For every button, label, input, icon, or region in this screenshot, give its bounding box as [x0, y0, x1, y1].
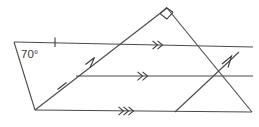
- tick-marks: [55, 38, 67, 90]
- direction-arrow-markers: [86, 56, 232, 68]
- triangle-right-leg: [167, 8, 252, 112]
- arrow-rising-diagonal: [86, 58, 95, 68]
- geometry-diagram-canvas: 70°: [0, 0, 259, 127]
- top-horizontal-line: [14, 42, 253, 47]
- bottom-horizontal-line: [35, 110, 252, 112]
- geometry-figure: 70°: [0, 0, 259, 127]
- second-rising-diagonal: [175, 52, 239, 112]
- angle-label-70: 70°: [21, 48, 38, 60]
- parallel-chevron-markers: [119, 41, 163, 115]
- rising-diagonal: [35, 8, 167, 110]
- construction-lines: [14, 8, 253, 112]
- arrow-second-diagonal: [222, 56, 232, 68]
